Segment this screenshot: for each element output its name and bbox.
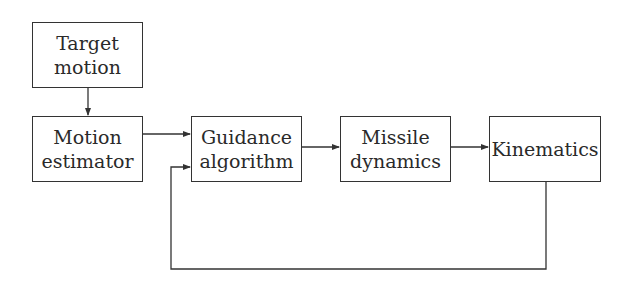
block-label: Kinematics — [491, 137, 598, 161]
block-missile-dynamics: Missile dynamics — [340, 116, 451, 182]
block-kinematics: Kinematics — [489, 116, 601, 182]
block-motion-estimator: Motion estimator — [32, 116, 143, 182]
block-target-motion: Target motion — [32, 22, 143, 88]
feedback-loop-arrow — [171, 167, 546, 269]
block-label: Motion estimator — [41, 125, 133, 173]
block-label: Guidance algorithm — [199, 125, 293, 173]
block-label: Missile dynamics — [350, 125, 441, 173]
block-guidance-algorithm: Guidance algorithm — [191, 116, 302, 182]
block-label: Target motion — [54, 31, 121, 79]
